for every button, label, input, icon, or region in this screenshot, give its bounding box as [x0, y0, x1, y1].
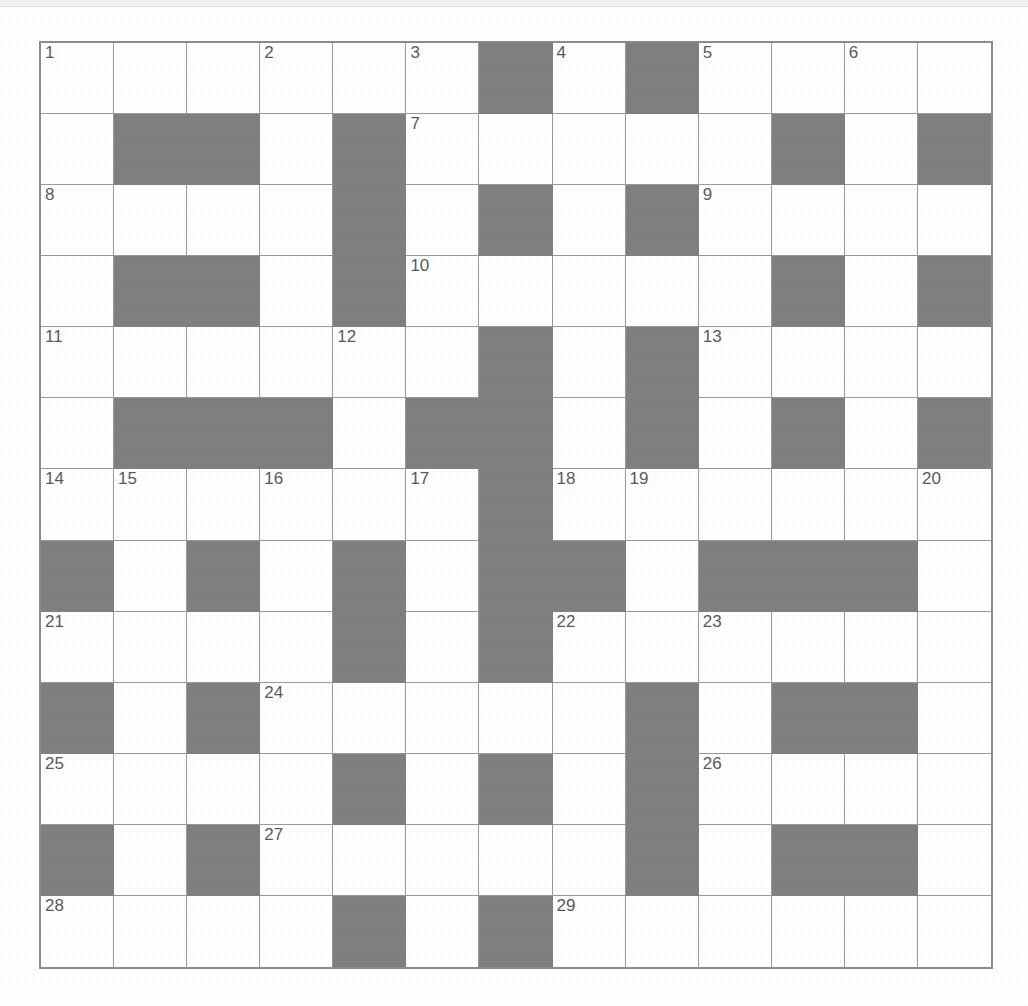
grid-open-cell[interactable] — [699, 683, 772, 754]
grid-open-cell[interactable] — [553, 683, 626, 754]
grid-open-cell[interactable] — [479, 683, 552, 754]
grid-open-cell[interactable]: 3 — [406, 43, 479, 114]
grid-open-cell[interactable] — [406, 612, 479, 683]
grid-open-cell[interactable] — [333, 43, 406, 114]
grid-open-cell[interactable]: 2 — [260, 43, 333, 114]
grid-open-cell[interactable]: 18 — [553, 469, 626, 540]
grid-open-cell[interactable]: 29 — [553, 896, 626, 967]
grid-open-cell[interactable] — [479, 825, 552, 896]
grid-open-cell[interactable] — [114, 896, 187, 967]
grid-open-cell[interactable] — [260, 612, 333, 683]
grid-open-cell[interactable] — [845, 896, 918, 967]
grid-open-cell[interactable]: 22 — [553, 612, 626, 683]
grid-open-cell[interactable] — [260, 896, 333, 967]
grid-open-cell[interactable] — [406, 185, 479, 256]
grid-open-cell[interactable]: 24 — [260, 683, 333, 754]
grid-open-cell[interactable] — [114, 185, 187, 256]
grid-open-cell[interactable] — [918, 327, 991, 398]
grid-open-cell[interactable]: 12 — [333, 327, 406, 398]
grid-open-cell[interactable] — [626, 114, 699, 185]
grid-open-cell[interactable]: 8 — [41, 185, 114, 256]
grid-open-cell[interactable] — [918, 683, 991, 754]
grid-open-cell[interactable] — [406, 896, 479, 967]
grid-open-cell[interactable]: 20 — [918, 469, 991, 540]
grid-open-cell[interactable] — [845, 185, 918, 256]
grid-open-cell[interactable]: 17 — [406, 469, 479, 540]
grid-open-cell[interactable] — [699, 469, 772, 540]
grid-open-cell[interactable] — [699, 896, 772, 967]
grid-open-cell[interactable]: 26 — [699, 754, 772, 825]
grid-open-cell[interactable] — [333, 469, 406, 540]
grid-open-cell[interactable] — [114, 612, 187, 683]
grid-open-cell[interactable] — [772, 896, 845, 967]
grid-open-cell[interactable] — [260, 185, 333, 256]
grid-open-cell[interactable]: 1 — [41, 43, 114, 114]
grid-open-cell[interactable]: 11 — [41, 327, 114, 398]
grid-open-cell[interactable]: 25 — [41, 754, 114, 825]
grid-open-cell[interactable] — [626, 896, 699, 967]
grid-open-cell[interactable]: 6 — [845, 43, 918, 114]
grid-open-cell[interactable]: 27 — [260, 825, 333, 896]
grid-open-cell[interactable] — [333, 683, 406, 754]
grid-open-cell[interactable] — [114, 825, 187, 896]
grid-open-cell[interactable] — [918, 825, 991, 896]
grid-open-cell[interactable] — [918, 185, 991, 256]
grid-open-cell[interactable] — [699, 825, 772, 896]
grid-open-cell[interactable]: 5 — [699, 43, 772, 114]
grid-open-cell[interactable] — [187, 327, 260, 398]
grid-open-cell[interactable] — [187, 754, 260, 825]
grid-open-cell[interactable] — [406, 541, 479, 612]
grid-open-cell[interactable]: 16 — [260, 469, 333, 540]
grid-open-cell[interactable] — [626, 612, 699, 683]
grid-open-cell[interactable]: 15 — [114, 469, 187, 540]
grid-open-cell[interactable] — [479, 114, 552, 185]
grid-open-cell[interactable] — [553, 256, 626, 327]
grid-open-cell[interactable] — [406, 683, 479, 754]
grid-open-cell[interactable] — [626, 256, 699, 327]
grid-open-cell[interactable] — [114, 754, 187, 825]
grid-open-cell[interactable] — [553, 114, 626, 185]
grid-open-cell[interactable] — [845, 256, 918, 327]
grid-open-cell[interactable] — [406, 754, 479, 825]
grid-open-cell[interactable] — [845, 754, 918, 825]
grid-open-cell[interactable] — [406, 327, 479, 398]
grid-open-cell[interactable]: 4 — [553, 43, 626, 114]
grid-open-cell[interactable]: 9 — [699, 185, 772, 256]
grid-open-cell[interactable] — [333, 825, 406, 896]
grid-open-cell[interactable] — [260, 754, 333, 825]
grid-open-cell[interactable] — [772, 754, 845, 825]
grid-open-cell[interactable] — [553, 754, 626, 825]
grid-open-cell[interactable] — [772, 327, 845, 398]
grid-open-cell[interactable] — [845, 114, 918, 185]
grid-open-cell[interactable] — [772, 612, 845, 683]
grid-open-cell[interactable]: 13 — [699, 327, 772, 398]
grid-open-cell[interactable] — [333, 398, 406, 469]
grid-open-cell[interactable] — [114, 43, 187, 114]
grid-open-cell[interactable] — [114, 541, 187, 612]
grid-open-cell[interactable] — [918, 43, 991, 114]
grid-open-cell[interactable] — [553, 398, 626, 469]
grid-open-cell[interactable] — [260, 327, 333, 398]
grid-open-cell[interactable] — [918, 896, 991, 967]
grid-open-cell[interactable]: 23 — [699, 612, 772, 683]
grid-open-cell[interactable] — [772, 469, 845, 540]
grid-open-cell[interactable] — [918, 754, 991, 825]
grid-open-cell[interactable] — [41, 114, 114, 185]
grid-open-cell[interactable] — [260, 256, 333, 327]
grid-open-cell[interactable]: 28 — [41, 896, 114, 967]
grid-open-cell[interactable] — [406, 825, 479, 896]
grid-open-cell[interactable] — [187, 185, 260, 256]
grid-open-cell[interactable] — [553, 185, 626, 256]
grid-open-cell[interactable]: 19 — [626, 469, 699, 540]
grid-open-cell[interactable] — [41, 256, 114, 327]
grid-open-cell[interactable] — [479, 256, 552, 327]
grid-open-cell[interactable] — [187, 896, 260, 967]
grid-open-cell[interactable]: 7 — [406, 114, 479, 185]
grid-open-cell[interactable] — [699, 114, 772, 185]
grid-open-cell[interactable] — [918, 612, 991, 683]
grid-open-cell[interactable] — [553, 327, 626, 398]
grid-open-cell[interactable]: 14 — [41, 469, 114, 540]
grid-open-cell[interactable] — [626, 541, 699, 612]
grid-open-cell[interactable] — [187, 43, 260, 114]
grid-open-cell[interactable]: 10 — [406, 256, 479, 327]
